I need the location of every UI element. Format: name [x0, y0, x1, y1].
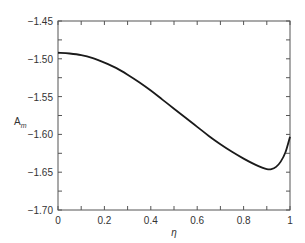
y-tick-label: −1.50 [28, 54, 54, 65]
x-tick-label: 1 [287, 215, 293, 226]
y-tick-label: −1.65 [28, 167, 54, 178]
x-tick-label: 0.2 [97, 215, 111, 226]
y-axis-label-sub: m [21, 122, 27, 129]
y-tick-label: −1.70 [28, 205, 54, 216]
x-axis-label: η [171, 227, 177, 238]
axis-ticks [58, 21, 290, 210]
x-tick-label: 0 [55, 215, 61, 226]
chart: 00.20.40.60.81 −1.45−1.50−1.55−1.60−1.65… [0, 0, 305, 243]
y-tick-label: −1.60 [28, 129, 54, 140]
x-tick-label: 0.8 [237, 215, 251, 226]
y-tick-label: −1.55 [28, 92, 54, 103]
y-tick-label: −1.45 [28, 16, 54, 27]
x-tick-label: 0.6 [190, 215, 204, 226]
y-tick-labels: −1.45−1.50−1.55−1.60−1.65−1.70 [28, 16, 54, 216]
y-axis-label: Am [14, 116, 27, 129]
x-tick-label: 0.4 [144, 215, 158, 226]
data-line [58, 53, 290, 170]
plot-frame [58, 21, 290, 210]
x-tick-labels: 00.20.40.60.81 [55, 215, 293, 226]
